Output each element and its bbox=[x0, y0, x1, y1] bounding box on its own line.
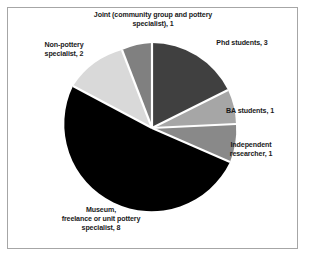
pie-label-non-pottery-specialist: Non-pottery specialist, 2 bbox=[24, 41, 104, 59]
pie-label-museum-freelance-pottery-specialist: Museum, freelance or unit pottery specia… bbox=[44, 206, 158, 234]
pie-label-phd-students: Phd students, 3 bbox=[198, 39, 286, 48]
pie-label-joint: Joint (community group and pottery speci… bbox=[66, 11, 240, 29]
pie-label-ba-students: BA students, 1 bbox=[212, 107, 288, 116]
pie-label-independent-researcher: Independent researcher, 1 bbox=[215, 141, 287, 159]
